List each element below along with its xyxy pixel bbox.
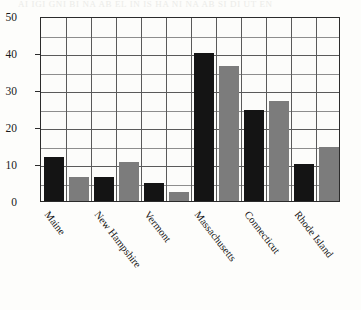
x-tick-label-rhode-island: Rhode Island	[292, 209, 335, 260]
x-tick-label-new-hampshire: New Hampshire	[92, 209, 143, 270]
y-tick-label-20: 20	[0, 122, 17, 134]
gridline-x-2	[91, 18, 92, 201]
gridline-y-45	[41, 37, 339, 38]
bar-massachusetts-series1	[194, 53, 214, 201]
y-tick-label-0: 0	[0, 196, 17, 208]
gridline-y-20	[41, 129, 339, 130]
gridline-y-25	[41, 111, 339, 112]
gridline-x-5	[166, 18, 167, 201]
bar-new-hampshire-series1	[94, 177, 114, 201]
gridline-x-6	[191, 18, 192, 201]
gridline-x-11	[316, 18, 317, 201]
plot-area	[40, 17, 340, 202]
gridline-x-9	[266, 18, 267, 201]
gridline-y-15	[41, 148, 339, 149]
x-tick-label-maine: Maine	[42, 209, 67, 237]
y-tick-label-50: 50	[0, 11, 17, 23]
gridline-y-40	[41, 55, 339, 56]
gridline-x-3	[116, 18, 117, 201]
bar-chart-figure: 01020304050 MaineNew HampshireVermontMas…	[0, 0, 361, 310]
gridline-x-7	[216, 18, 217, 201]
gridline-x-8	[241, 18, 242, 201]
bar-rhode-island-series1	[294, 164, 314, 201]
y-tick-label-30: 30	[0, 85, 17, 97]
gridline-x-10	[291, 18, 292, 201]
bar-maine-series1	[44, 157, 64, 201]
gridline-y-35	[41, 74, 339, 75]
bar-connecticut-series1	[244, 110, 264, 201]
bar-massachusetts-series2	[219, 66, 239, 201]
bar-rhode-island-series2	[319, 147, 339, 201]
bar-vermont-series2	[169, 192, 189, 201]
gridline-x-1	[66, 18, 67, 201]
y-tick-label-40: 40	[0, 48, 17, 60]
gridline-y-30	[41, 92, 339, 93]
x-tick-label-massachusetts: Massachusetts	[192, 209, 238, 264]
bar-maine-series2	[69, 177, 89, 201]
x-tick-label-connecticut: Connecticut	[242, 209, 282, 256]
x-tick-label-vermont: Vermont	[142, 209, 173, 244]
bar-vermont-series1	[144, 183, 164, 202]
bar-new-hampshire-series2	[119, 162, 139, 201]
y-tick-label-10: 10	[0, 159, 17, 171]
gridline-x-4	[141, 18, 142, 201]
bar-connecticut-series2	[269, 101, 289, 201]
